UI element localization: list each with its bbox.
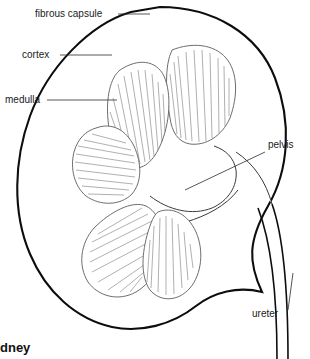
label-pelvis: pelvis <box>268 139 294 150</box>
label-medulla: medulla <box>5 94 40 105</box>
kidney-diagram: fibrous capsule cortex medulla pelvis ur… <box>0 0 310 359</box>
label-ureter: ureter <box>252 308 279 319</box>
leader-ureter <box>288 273 293 310</box>
label-fibrous-capsule: fibrous capsule <box>35 8 103 19</box>
ureter-outer-wall <box>272 204 288 359</box>
figure-caption: dney <box>0 340 31 355</box>
label-cortex: cortex <box>22 49 49 60</box>
ureter-inner-wall <box>258 208 277 359</box>
